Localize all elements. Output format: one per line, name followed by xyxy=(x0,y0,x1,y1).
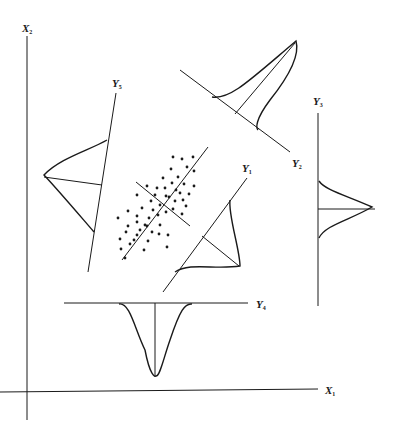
x1-axis xyxy=(0,389,318,392)
scatter-points xyxy=(117,156,196,260)
y3-projection: Y3 xyxy=(313,95,375,306)
y2-label: Y2 xyxy=(292,157,302,170)
scatter-cloud xyxy=(117,147,208,260)
y2-projection: Y2 xyxy=(180,41,302,170)
x2-axis-label: X2 xyxy=(21,22,32,35)
y4-label: Y4 xyxy=(256,298,266,311)
y1-density-curve xyxy=(175,200,240,272)
x1-axis-label: X1 xyxy=(324,384,335,397)
projection-pursuit-diagram: X2 X1 Y5 Y2 Y3 Y1 Y4 xyxy=(0,0,396,426)
y1-label: Y1 xyxy=(242,162,252,175)
principal-axis-major xyxy=(122,147,208,260)
y5-axis xyxy=(88,93,116,272)
y5-projection: Y5 xyxy=(44,77,122,272)
y5-density-curve xyxy=(44,140,107,232)
y1-projection: Y1 xyxy=(163,162,252,292)
y2-density-curve xyxy=(212,41,297,130)
y3-label: Y3 xyxy=(313,95,323,108)
y4-projection: Y4 xyxy=(64,298,266,376)
y2-axis xyxy=(180,70,290,152)
principal-axis-minor xyxy=(136,182,190,226)
y1-mode-line xyxy=(202,236,239,266)
y5-label: Y5 xyxy=(112,77,122,90)
